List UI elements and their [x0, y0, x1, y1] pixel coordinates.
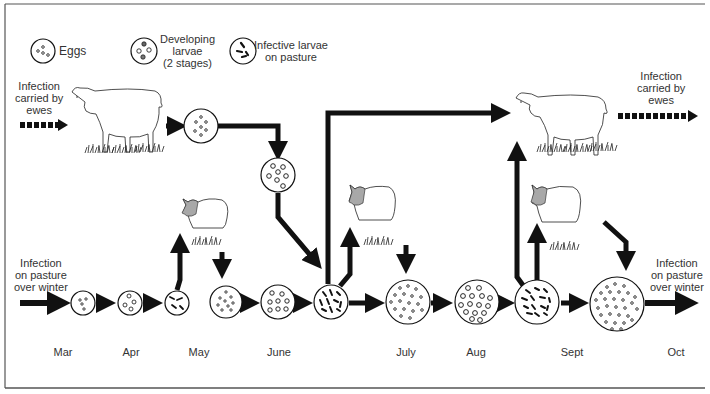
stage-oct-eggs-icon	[590, 277, 644, 331]
label-line: ewes	[15, 104, 63, 116]
arrow	[340, 236, 350, 286]
legend-developing-larvae-icon	[131, 38, 157, 64]
arrow	[278, 193, 316, 262]
lamb-july-icon	[349, 185, 395, 245]
dashed-arrow-right	[618, 110, 698, 122]
stage-aug-developing-icon	[455, 280, 499, 324]
diagram-canvas	[0, 0, 710, 394]
legend-developing-line: Developing	[160, 33, 215, 45]
label-line: ewes	[637, 94, 685, 106]
legend-infective-line: Infective larvae	[254, 39, 328, 51]
label-line: carried by	[15, 92, 63, 104]
month-label-may: May	[189, 346, 210, 358]
legend-infective-line: on pasture	[254, 51, 328, 63]
stage-may-eggs-icon	[210, 286, 242, 318]
stage-developing-upper-icon	[261, 158, 295, 192]
label-line: Infection	[650, 257, 704, 269]
label-line: on pasture	[650, 269, 704, 281]
arrow	[177, 242, 180, 290]
label-infection-carried-left: Infection carried by ewes	[15, 80, 63, 116]
ewe-left-icon	[72, 88, 164, 154]
dashed-arrow-left	[20, 119, 68, 131]
label-line: Infection	[15, 80, 63, 92]
stage-apr-developing-icon	[118, 291, 142, 315]
stage-eggs-spring-icon	[184, 109, 218, 143]
stage-june-developing-icon	[261, 285, 295, 319]
legend-developing-label: Developing larvae (2 stages)	[160, 33, 215, 69]
month-label-june: June	[267, 346, 291, 358]
lamb-may-icon	[182, 199, 228, 245]
label-line: over winter	[650, 281, 704, 293]
arrow	[218, 126, 278, 152]
stage-july-eggs-icon	[386, 280, 430, 324]
month-label-mar: Mar	[54, 346, 73, 358]
ewe-right-icon	[516, 93, 617, 155]
arrow	[604, 222, 626, 262]
stage-sept-infective-icon	[515, 280, 559, 324]
month-label-sept: Sept	[561, 346, 584, 358]
label-line: Infection	[14, 257, 68, 269]
legend-infective-label: Infective larvae on pasture	[254, 39, 328, 63]
legend-eggs-label: Eggs	[59, 45, 86, 57]
month-label-apr: Apr	[122, 346, 139, 358]
legend-eggs-icon	[31, 39, 55, 63]
legend-infective-larvae-icon	[230, 38, 256, 64]
legend-developing-line: (2 stages)	[160, 57, 215, 69]
label-line: on pasture	[14, 269, 68, 281]
label-line: carried by	[637, 82, 685, 94]
month-label-oct: Oct	[667, 346, 684, 358]
label-infection-pasture-left: Infection on pasture over winter	[14, 257, 68, 293]
month-label-july: July	[396, 346, 416, 358]
month-label-aug: Aug	[466, 346, 486, 358]
label-line: Infection	[637, 70, 685, 82]
arrow	[517, 150, 525, 288]
stage-mar-eggs-icon	[71, 291, 95, 315]
stage-june-infective-icon	[314, 285, 348, 319]
stage-may-infective-icon	[165, 291, 189, 315]
label-line: over winter	[14, 281, 68, 293]
parasite-life-cycle-diagram: Eggs Developing larvae (2 stages) Infect…	[0, 0, 710, 394]
label-infection-pasture-right: Infection on pasture over winter	[650, 257, 704, 293]
legend-developing-line: larvae	[160, 45, 215, 57]
label-infection-carried-right: Infection carried by ewes	[637, 70, 685, 106]
